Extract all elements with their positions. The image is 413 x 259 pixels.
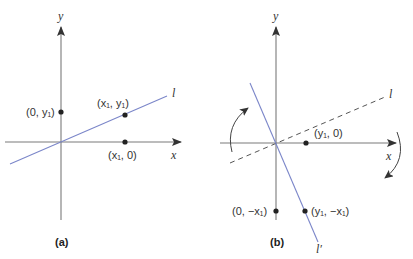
point-y1-negx1 <box>302 208 307 213</box>
rotation-diagram: y x l (0, y₁) (x₁, y₁) (x₁, 0) (a) y x l… <box>0 0 413 259</box>
label-x1-y1: (x₁, y₁) <box>97 97 129 109</box>
y-axis-label-b: y <box>272 9 279 23</box>
point-x1-0 <box>122 139 127 144</box>
point-0-negx1 <box>273 208 278 213</box>
counterclockwise-arrow-icon <box>230 108 248 152</box>
point-0-y1 <box>58 109 63 114</box>
line-l-dashed-b <box>230 97 385 163</box>
line-l-prime-b <box>250 83 318 242</box>
label-y1-negx1: (y₁, −x₁) <box>311 205 349 217</box>
line-l-prime-label-b: l′ <box>316 242 322 256</box>
label-0-negx1: (0, −x₁) <box>232 205 267 217</box>
panel-a: y x l (0, y₁) (x₁, y₁) (x₁, 0) (a) <box>5 9 181 248</box>
x-axis-label-a: x <box>170 148 177 162</box>
label-x1-0: (x₁, 0) <box>108 149 137 161</box>
line-l-label-a: l <box>172 86 176 100</box>
label-0-y1: (0, y₁) <box>26 106 55 118</box>
panel-b: y x l l′ (y₁, 0) (0, −x₁) (y₁, −x₁) (b) <box>220 9 401 256</box>
line-l-label-b: l <box>389 87 393 101</box>
point-x1-y1 <box>122 112 127 117</box>
label-y1-0: (y₁, 0) <box>314 127 343 139</box>
point-y1-0 <box>303 140 308 145</box>
x-axis-label-b: x <box>385 149 392 163</box>
caption-b: (b) <box>270 236 284 248</box>
caption-a: (a) <box>55 236 69 248</box>
y-axis-label-a: y <box>57 9 64 23</box>
